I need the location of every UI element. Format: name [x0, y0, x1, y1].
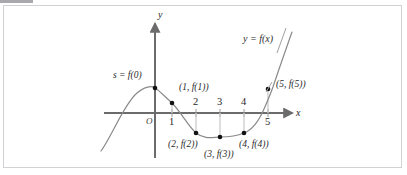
- point-label-5: (5, f(5)): [276, 80, 306, 90]
- point-4: [242, 131, 247, 136]
- y-axis-label: y: [158, 10, 162, 20]
- point-label-2: (2, f(2)): [168, 140, 198, 150]
- point-label-3: (3, f(3)): [204, 150, 234, 160]
- point-2: [194, 131, 199, 136]
- point-1: [170, 101, 175, 106]
- point-label-4: (4, f(4)): [239, 140, 269, 150]
- point-3: [218, 135, 223, 140]
- x-tick-label-4: 4: [241, 97, 246, 108]
- origin-label: O: [146, 117, 153, 126]
- curve-label: y = f(x): [243, 34, 273, 44]
- x-tick-label-3: 3: [217, 97, 222, 108]
- point-label-0: s = f(0): [113, 71, 142, 81]
- x-tick-label-1: 1: [169, 117, 174, 128]
- point-label-1: (1, f(1)): [179, 83, 209, 93]
- x-tick-label-5: 5: [265, 117, 270, 128]
- point-0: [153, 86, 158, 91]
- curve-label-leader: [277, 28, 286, 53]
- x-tick-label-2: 2: [193, 97, 198, 108]
- x-axis-label: x: [296, 108, 300, 118]
